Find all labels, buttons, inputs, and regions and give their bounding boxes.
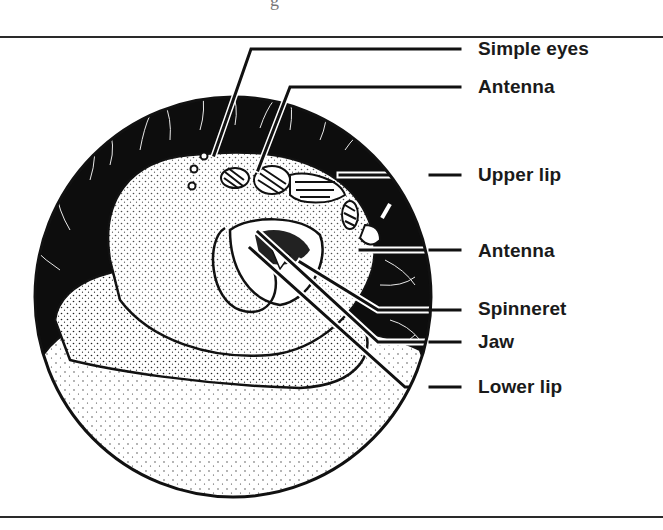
label-upper-lip: Upper lip xyxy=(478,164,561,186)
label-simple-eyes: Simple eyes xyxy=(478,38,589,60)
label-antenna-lower: Antenna xyxy=(478,240,555,262)
label-lower-lip: Lower lip xyxy=(478,376,562,398)
label-jaw: Jaw xyxy=(478,331,514,353)
label-antenna-upper: Antenna xyxy=(478,76,555,98)
caterpillar-head-illustration xyxy=(0,0,663,530)
label-spinneret: Spinneret xyxy=(478,298,567,320)
